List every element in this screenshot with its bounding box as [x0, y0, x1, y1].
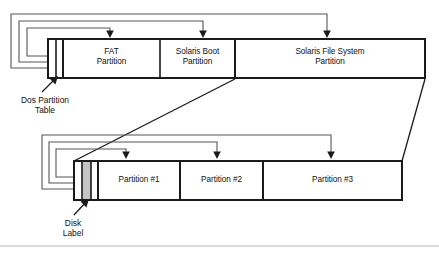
arrow-head-solaris-fs — [323, 31, 331, 39]
arrow-head-fat — [106, 31, 114, 39]
segment-label-fat: FAT Partition — [63, 47, 160, 66]
arrow-head-partition-2 — [213, 152, 221, 160]
segment-label-solaris-fs: Solaris File System Partition — [235, 47, 425, 66]
bottom-arrowheads — [122, 152, 335, 160]
arrow-head-solaris-boot — [199, 31, 207, 39]
diagram-canvas — [0, 0, 439, 255]
arrow-head-partition-1 — [122, 152, 130, 160]
connector-right — [402, 79, 425, 161]
disk-partition-diagram: FAT Partition Solaris Boot Partition Sol… — [0, 0, 439, 255]
disk-label-pointer — [74, 199, 89, 215]
arrow-head-partition-3 — [327, 152, 335, 160]
segment-label-partition-2: Partition #2 — [180, 175, 263, 185]
segment-label-solaris-boot: Solaris Boot Partition — [160, 47, 235, 66]
top-arrowheads — [106, 31, 331, 39]
callout-dos-partition-table: Dos Partition Table — [0, 95, 90, 116]
disk-label-cell — [82, 162, 91, 199]
expansion-connectors — [74, 79, 425, 161]
segment-label-partition-3: Partition #3 — [263, 175, 402, 185]
callout-disk-label: Disk Label — [38, 218, 108, 239]
segment-label-partition-1: Partition #1 — [98, 175, 180, 185]
